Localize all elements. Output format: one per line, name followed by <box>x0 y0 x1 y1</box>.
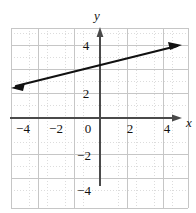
y-tick-label-neg2: −2 <box>74 149 94 162</box>
x-tick-label-neg2: −2 <box>46 122 66 135</box>
y-axis-label: y <box>94 9 100 22</box>
y-tick-label-2: 2 <box>80 87 92 100</box>
coordinate-plane-figure: y x −4 −2 0 2 4 4 2 −2 −4 <box>0 0 196 213</box>
x-tick-label-0: 0 <box>82 122 94 135</box>
x-axis-arrowhead <box>172 115 182 122</box>
x-tick-label-2: 2 <box>124 122 136 135</box>
graph-canvas <box>0 0 196 213</box>
line-right-arrowhead <box>168 42 182 50</box>
x-tick-label-4: 4 <box>161 122 173 135</box>
plotted-line <box>16 46 177 86</box>
line-left-arrowhead <box>11 83 25 91</box>
y-tick-label-4: 4 <box>80 39 92 52</box>
y-tick-label-neg4: −4 <box>74 184 94 197</box>
x-tick-label-neg4: −4 <box>13 122 33 135</box>
axes <box>10 31 178 186</box>
x-axis-label: x <box>186 116 192 129</box>
